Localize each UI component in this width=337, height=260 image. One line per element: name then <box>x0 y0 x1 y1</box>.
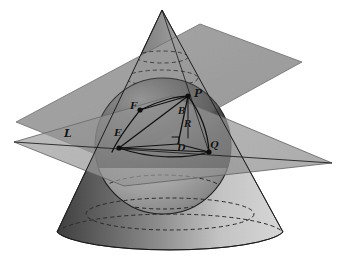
point-marker-E <box>116 145 121 150</box>
figure-canvas: P F B R E D Q L <box>0 0 337 260</box>
geometry-illustration <box>0 0 337 260</box>
point-marker-Q <box>206 149 211 154</box>
point-marker-F <box>137 107 142 112</box>
lower-cutting-plane <box>14 24 332 186</box>
point-marker-P <box>185 93 190 98</box>
